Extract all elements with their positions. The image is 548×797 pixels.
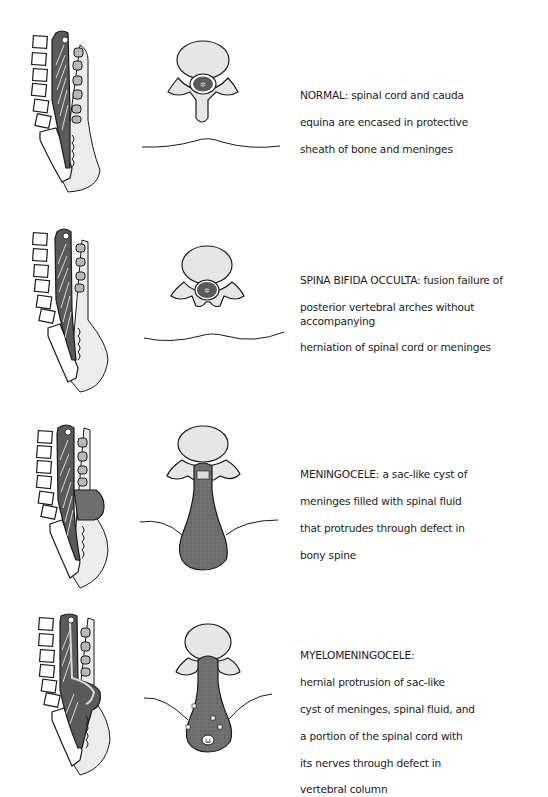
sagittal-spine-meningocele-illustration	[0, 410, 140, 610]
panel-myelomeningocele: ω MYELOMENINGOCELE: hernial protrusion o…	[0, 610, 548, 787]
caption-line: MENINGOCELE: a sac-like cyst of	[300, 468, 467, 481]
axial-vertebra-occulta-illustration: ✲	[140, 240, 300, 370]
axial-vertebra-myelomeningocele-illustration: ω	[140, 610, 310, 787]
caption-line: vertebral column	[300, 783, 475, 796]
panel-meningocele: MENINGOCELE: a sac-like cyst of meninges…	[0, 410, 548, 610]
axial-vertebra-meningocele-illustration	[130, 410, 310, 610]
caption-line: equina are encased in protective	[300, 116, 468, 129]
caption-line: a portion of the spinal cord with	[300, 730, 475, 743]
caption-line: meninges filled with spinal fluid	[300, 495, 467, 508]
caption-line: posterior vertebral arches without accom…	[300, 301, 548, 328]
caption-line: cyst of meninges, spinal fluid, and	[300, 703, 475, 716]
sagittal-spine-myelomeningocele-illustration	[0, 610, 140, 787]
caption-line: MYELOMENINGOCELE:	[300, 649, 475, 662]
panel-normal: ✲ NORMAL: spinal cord and cauda equina a…	[0, 0, 548, 200]
caption-myelomeningocele: MYELOMENINGOCELE: hernial protrusion of …	[300, 636, 475, 797]
caption-line: herniation of spinal cord or meninges	[300, 341, 548, 354]
caption-line: NORMAL: spinal cord and cauda	[300, 89, 468, 102]
caption-line: that protrudes through defect in	[300, 522, 467, 535]
svg-text:✲: ✲	[204, 287, 210, 295]
caption-line: sheath of bone and meninges	[300, 143, 468, 156]
caption-normal: NORMAL: spinal cord and cauda equina are…	[300, 76, 468, 170]
svg-text:✲: ✲	[200, 81, 206, 89]
caption-line: bony spine	[300, 549, 467, 562]
sagittal-spine-occulta-illustration	[0, 220, 140, 410]
caption-line: SPINA BIFIDA OCCULTA: fusion failure of	[300, 274, 548, 287]
axial-vertebra-normal-illustration: ✲	[140, 20, 300, 160]
sagittal-spine-normal-illustration	[0, 0, 140, 200]
svg-text:ω: ω	[205, 737, 211, 745]
caption-line: hernial protrusion of sac-like	[300, 676, 475, 689]
caption-spina-bifida-occulta: SPINA BIFIDA OCCULTA: fusion failure of …	[300, 261, 548, 368]
caption-line: its nerves through defect in	[300, 757, 475, 770]
panel-spina-bifida-occulta: ✲ SPINA BIFIDA OCCULTA: fusion failure o…	[0, 220, 548, 410]
caption-meningocele: MENINGOCELE: a sac-like cyst of meninges…	[300, 455, 467, 576]
